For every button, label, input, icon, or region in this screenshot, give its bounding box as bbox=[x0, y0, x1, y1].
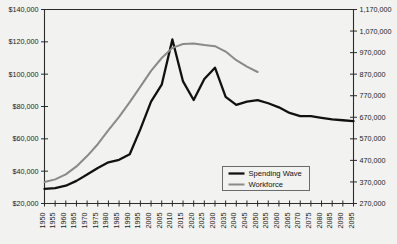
x-axis-tick-label: 2040 bbox=[229, 213, 238, 229]
x-axis-tick-label: 1955 bbox=[48, 213, 57, 229]
x-axis-tick-label: 2045 bbox=[240, 213, 249, 229]
x-axis-tick-label: 2010 bbox=[165, 213, 174, 229]
left-axis-tick-label: $20,000 bbox=[13, 199, 39, 208]
x-axis-tick-label: 2075 bbox=[304, 213, 313, 229]
x-axis-tick-label: 2050 bbox=[251, 213, 260, 229]
x-axis-tick-label: 2085 bbox=[325, 213, 334, 229]
chart-container: $20,000$40,000$60,000$80,000$100,000$120… bbox=[0, 0, 397, 244]
x-axis-tick-label: 2035 bbox=[219, 213, 228, 229]
left-axis-tick-label: $120,000 bbox=[9, 37, 39, 46]
right-axis-tick-label: 370,000 bbox=[360, 178, 386, 187]
left-axis-tick-label: $100,000 bbox=[9, 70, 39, 79]
right-axis-tick-label: 1,070,000 bbox=[360, 27, 392, 36]
x-axis-tick-label: 1965 bbox=[69, 213, 78, 229]
x-axis-tick-label: 2000 bbox=[144, 213, 153, 229]
right-axis-tick-label: 470,000 bbox=[360, 156, 386, 165]
x-axis-tick-label: 2015 bbox=[176, 213, 185, 229]
right-axis-tick-label: 570,000 bbox=[360, 134, 386, 143]
chart-legend[interactable]: Spending WaveWorkforce bbox=[223, 167, 310, 191]
left-axis-tick-label: $140,000 bbox=[9, 5, 39, 14]
x-axis-tick-label: 2020 bbox=[187, 213, 196, 229]
right-axis-tick-label: 970,000 bbox=[360, 48, 386, 57]
x-axis-tick-label: 2005 bbox=[155, 213, 164, 229]
chart-background bbox=[0, 0, 397, 244]
x-axis-tick-label: 1990 bbox=[123, 213, 132, 229]
legend-label-spending-wave: Spending Wave bbox=[249, 169, 302, 178]
legend-label-workforce: Workforce bbox=[249, 180, 283, 189]
x-axis-tick-label: 2070 bbox=[293, 213, 302, 229]
line-chart: $20,000$40,000$60,000$80,000$100,000$120… bbox=[0, 0, 397, 244]
right-axis-tick-label: 270,000 bbox=[360, 199, 386, 208]
x-axis-tick-label: 1985 bbox=[112, 213, 121, 229]
x-axis-tick-label: 1980 bbox=[101, 213, 110, 229]
x-axis-tick-label: 1950 bbox=[38, 213, 47, 229]
left-axis-tick-label: $40,000 bbox=[13, 167, 39, 176]
x-axis-tick-label: 2030 bbox=[208, 213, 217, 229]
right-axis-tick-label: 1,170,000 bbox=[360, 5, 392, 14]
x-axis-tick-label: 2065 bbox=[283, 213, 292, 229]
x-axis-tick-label: 2025 bbox=[197, 213, 206, 229]
x-axis-tick-label: 2060 bbox=[272, 213, 281, 229]
x-axis-tick-label: 2055 bbox=[261, 213, 270, 229]
right-axis-tick-label: 770,000 bbox=[360, 91, 386, 100]
x-axis-tick-label: 1975 bbox=[91, 213, 100, 229]
right-axis-tick-label: 870,000 bbox=[360, 70, 386, 79]
right-axis-tick-label: 670,000 bbox=[360, 113, 386, 122]
x-axis-tick-label: 2090 bbox=[336, 213, 345, 229]
x-axis-tick-label: 2080 bbox=[315, 213, 324, 229]
x-axis-tick-label: 1960 bbox=[59, 213, 68, 229]
x-axis-tick-label: 2095 bbox=[347, 213, 356, 229]
x-axis-tick-label: 1970 bbox=[80, 213, 89, 229]
x-axis-tick-label: 1995 bbox=[133, 213, 142, 229]
left-axis-tick-label: $80,000 bbox=[13, 102, 39, 111]
left-axis-tick-label: $60,000 bbox=[13, 134, 39, 143]
